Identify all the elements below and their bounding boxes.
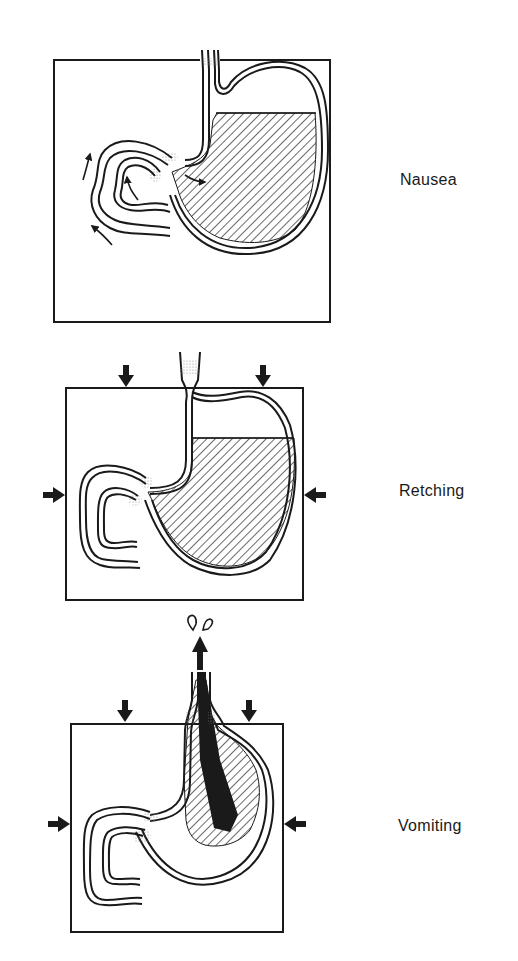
label-nausea: Nausea <box>400 171 457 189</box>
arrow-left-icon <box>284 816 306 832</box>
gastric-contents <box>172 113 316 243</box>
ejected-droplets <box>188 615 213 630</box>
arrow-left-icon <box>304 487 326 503</box>
sphincter-stipple <box>203 58 217 66</box>
droplet-icon <box>188 615 196 630</box>
duodenum <box>84 807 150 905</box>
panel-retching <box>43 352 326 600</box>
duodenum <box>80 465 146 568</box>
droplet-icon <box>203 619 212 630</box>
sphincter-stipple <box>208 712 216 724</box>
flow-arrow-icon <box>127 177 138 200</box>
arrow-right-icon <box>43 487 65 503</box>
arrow-down-icon <box>255 365 271 387</box>
flow-arrow-icon <box>92 226 112 245</box>
ejection-arrow-icon <box>192 636 208 670</box>
sphincter-stipple <box>181 360 199 374</box>
label-retching: Retching <box>399 482 465 500</box>
duodenum <box>91 141 172 236</box>
arrow-down-icon <box>241 700 257 722</box>
arrow-down-icon <box>118 365 134 387</box>
label-vomiting: Vomiting <box>398 817 462 835</box>
emesis-phases-figure: Nausea Retching Vomiting <box>0 0 518 961</box>
sphincter-stipple <box>186 712 194 724</box>
arrow-down-icon <box>117 700 133 722</box>
panel-nausea <box>54 50 330 322</box>
panel-vomiting <box>48 615 306 932</box>
flow-arrow-icon <box>83 154 90 180</box>
arrow-right-icon <box>48 816 70 832</box>
